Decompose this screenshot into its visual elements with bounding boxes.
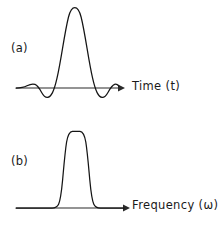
panel-b-tag: (b) [11, 156, 28, 168]
panel-a-tag: (a) [11, 43, 28, 55]
panel-a-plot [0, 0, 224, 117]
sinc-pulse-curve [16, 8, 119, 98]
spectrum-pulse-curve [16, 131, 124, 208]
panel-a: (a) Time (t) [0, 0, 224, 117]
panel-b: (b) Frequency (ω) [0, 117, 224, 234]
panel-b-axis-label: Frequency (ω) [132, 200, 218, 212]
panel-b-plot [0, 117, 224, 234]
panel-a-axis-label: Time (t) [132, 81, 180, 93]
figure-container: (a) Time (t) (b) Frequency (ω) [0, 0, 224, 234]
